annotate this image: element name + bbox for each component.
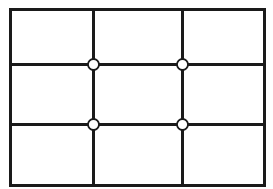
- rule-of-thirds-grid: [0, 0, 273, 189]
- intersection-node-top-left: [88, 59, 99, 70]
- outer-frame: [11, 10, 265, 186]
- intersection-node-bottom-right: [177, 119, 188, 130]
- intersection-node-top-right: [177, 59, 188, 70]
- intersection-node-bottom-left: [88, 119, 99, 130]
